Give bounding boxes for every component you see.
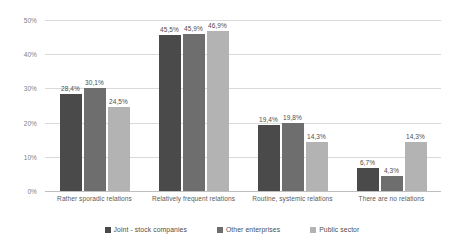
legend-label: Joint - stock companies	[114, 226, 187, 233]
legend-swatch-icon	[105, 227, 111, 233]
y-axis-tick: 40%	[24, 51, 37, 58]
legend-item[interactable]: Public sector	[310, 226, 359, 233]
bar[interactable]	[108, 107, 130, 191]
x-axis: Rather sporadic relationsRelatively freq…	[45, 194, 441, 224]
y-axis-tick: 20%	[24, 119, 37, 126]
axis-baseline	[45, 191, 441, 192]
bar-value-label: 6,7%	[360, 159, 375, 166]
x-axis-category-label: There are no relations	[342, 194, 441, 224]
bar-value-label: 30,1%	[85, 79, 104, 86]
legend-swatch-icon	[310, 227, 316, 233]
bar-slot: 24,5%	[108, 20, 130, 191]
bar-groups: 28,4%30,1%24,5%45,5%45,9%46,9%19,4%19,8%…	[45, 20, 441, 191]
bar-slot: 45,5%	[159, 20, 181, 191]
bar-group: 19,4%19,8%14,3%	[243, 20, 342, 191]
bar-value-label: 45,5%	[160, 26, 179, 33]
bar-value-label: 28,4%	[61, 85, 80, 92]
legend-swatch-icon	[217, 227, 223, 233]
legend-item[interactable]: Joint - stock companies	[105, 226, 187, 233]
bar-slot: 28,4%	[60, 20, 82, 191]
bar-group: 6,7%4,3%14,3%	[342, 20, 441, 191]
bar-slot: 4,3%	[381, 20, 403, 191]
bar-value-label: 14,3%	[406, 133, 425, 140]
bar-slot: 19,4%	[258, 20, 280, 191]
bar[interactable]	[84, 88, 106, 191]
bar[interactable]	[207, 31, 229, 191]
bar-value-label: 14,3%	[307, 133, 326, 140]
legend-label: Other enterprises	[226, 226, 280, 233]
bar-value-label: 45,9%	[184, 25, 203, 32]
bar-value-label: 46,9%	[208, 22, 227, 29]
bar-group-bars: 6,7%4,3%14,3%	[342, 20, 441, 191]
x-axis-category-label: Rather sporadic relations	[45, 194, 144, 224]
bar-slot: 45,9%	[183, 20, 205, 191]
y-axis-tick: 50%	[24, 17, 37, 24]
bar-group: 45,5%45,9%46,9%	[144, 20, 243, 191]
bar[interactable]	[405, 142, 427, 191]
y-axis-tick: 0%	[27, 188, 37, 195]
bar-value-label: 4,3%	[384, 167, 399, 174]
legend-item[interactable]: Other enterprises	[217, 226, 280, 233]
bar[interactable]	[282, 123, 304, 191]
bar-value-label: 19,8%	[283, 114, 302, 121]
bar-value-label: 24,5%	[109, 98, 128, 105]
bar-chart: 0%10%20%30%40%50% 28,4%30,1%24,5%45,5%45…	[0, 0, 464, 248]
y-axis-tick: 30%	[24, 85, 37, 92]
bar[interactable]	[258, 125, 280, 191]
plot-area: 28,4%30,1%24,5%45,5%45,9%46,9%19,4%19,8%…	[45, 20, 441, 191]
bar-group: 28,4%30,1%24,5%	[45, 20, 144, 191]
bar[interactable]	[357, 168, 379, 191]
bar-value-label: 19,4%	[259, 116, 278, 123]
bar-slot: 6,7%	[357, 20, 379, 191]
x-axis-category-label: Routine, systemic relations	[243, 194, 342, 224]
bar-group-bars: 19,4%19,8%14,3%	[243, 20, 342, 191]
legend-label: Public sector	[319, 226, 359, 233]
legend: Joint - stock companiesOther enterprises…	[0, 226, 464, 233]
bar[interactable]	[381, 176, 403, 191]
bar-group-bars: 28,4%30,1%24,5%	[45, 20, 144, 191]
bar[interactable]	[183, 34, 205, 191]
bar-slot: 14,3%	[405, 20, 427, 191]
y-axis: 0%10%20%30%40%50%	[0, 20, 41, 191]
y-axis-tick: 10%	[24, 153, 37, 160]
bar-slot: 19,8%	[282, 20, 304, 191]
bar-slot: 14,3%	[306, 20, 328, 191]
bar[interactable]	[306, 142, 328, 191]
bar[interactable]	[60, 94, 82, 191]
bar-group-bars: 45,5%45,9%46,9%	[144, 20, 243, 191]
bar-slot: 30,1%	[84, 20, 106, 191]
bar[interactable]	[159, 35, 181, 191]
x-axis-category-label: Relatively frequent relations	[144, 194, 243, 224]
bar-slot: 46,9%	[207, 20, 229, 191]
